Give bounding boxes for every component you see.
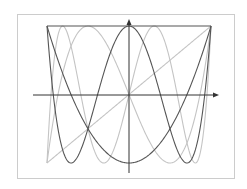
chebyshev-chart bbox=[0, 0, 247, 189]
